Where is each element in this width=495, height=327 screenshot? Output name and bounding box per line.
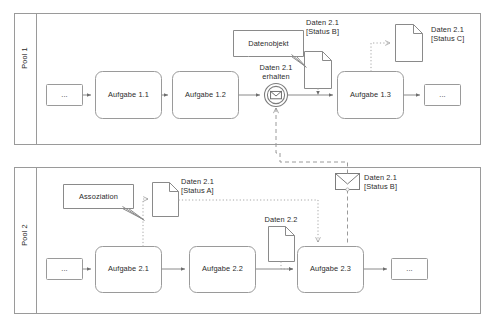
pool2-message-envelope-status-b[interactable] bbox=[336, 174, 360, 190]
pool2-message-label-line1: Daten 2.1 bbox=[364, 173, 397, 182]
pool1-task-3-label: Aufgabe 1.3 bbox=[338, 90, 403, 99]
pool1-data-object-status-c[interactable] bbox=[396, 25, 423, 62]
pool1-data-in-label-line2: [Status B] bbox=[306, 27, 339, 36]
pool-2-label: Pool 2 bbox=[20, 205, 29, 265]
pool2-task-2-label: Aufgabe 2.2 bbox=[190, 264, 255, 273]
pool2-end-placeholder-label: ... bbox=[391, 264, 428, 273]
pool1-end-placeholder-label: ... bbox=[424, 90, 461, 99]
bpmn-diagram-canvas: Pool 1 Pool 2 ... Aufgabe 1.1 Aufgabe 1.… bbox=[0, 0, 495, 327]
pool1-task-2-label: Aufgabe 1.2 bbox=[173, 90, 238, 99]
pool2-data-a-label-line1: Daten 2.1 bbox=[181, 177, 214, 186]
pool2-data-a-label-line2: [Status A] bbox=[181, 186, 214, 195]
pool1-data-out-label-line2: [Status C] bbox=[431, 34, 464, 43]
pool1-task-1-label: Aufgabe 1.1 bbox=[96, 90, 161, 99]
pool1-intermediate-message-catch-event[interactable] bbox=[265, 84, 288, 107]
pool1-data-object-status-b[interactable] bbox=[305, 52, 332, 89]
pool1-event-label-line1: Daten 2.1 bbox=[246, 63, 306, 72]
pool2-data-object-status-a[interactable] bbox=[153, 183, 179, 217]
pool2-task-1-label: Aufgabe 2.1 bbox=[96, 264, 161, 273]
pool1-data-in-label-line1: Daten 2.1 bbox=[306, 18, 339, 27]
pool2-data-object-daten-2-2[interactable] bbox=[269, 227, 295, 262]
pool-1-label: Pool 1 bbox=[20, 28, 29, 88]
pool2-task-3-label: Aufgabe 2.3 bbox=[298, 264, 363, 273]
pool2-message-label-line2: [Status B] bbox=[364, 182, 397, 191]
pool1-start-placeholder-label: ... bbox=[46, 90, 83, 99]
pool2-start-placeholder-label: ... bbox=[46, 264, 83, 273]
pool2-annotation-label: Assoziation bbox=[64, 192, 133, 201]
envelope-icon bbox=[271, 91, 282, 98]
pool1-event-label-line2: erhalten bbox=[246, 72, 306, 81]
diagram-vector-layer bbox=[0, 0, 495, 327]
pool2-data-22-label: Daten 2.2 bbox=[252, 215, 310, 224]
pool1-annotation-label: Datenobjekt bbox=[234, 39, 303, 48]
pool1-data-out-label-line1: Daten 2.1 bbox=[431, 25, 464, 34]
